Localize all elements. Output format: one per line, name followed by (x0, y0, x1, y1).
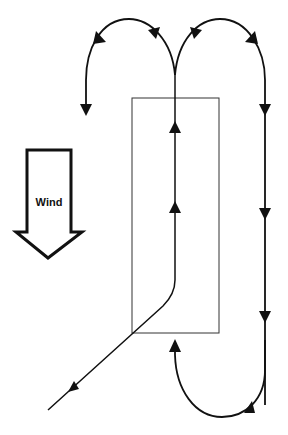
flight-pattern-diagram: Wind (0, 0, 288, 435)
down-arrow-icon (80, 104, 92, 116)
down-arrow-icon (259, 311, 271, 323)
down-arrow-icon (259, 104, 271, 116)
left-loop (86, 19, 175, 108)
wind-arrow-icon: Wind (16, 150, 82, 258)
right-loop (175, 19, 265, 405)
up-arrow-icon (169, 121, 181, 133)
up-arrow-icon (169, 201, 181, 213)
down-arrow-icon (259, 208, 271, 220)
up-arrow-icon (169, 339, 181, 352)
wind-label: Wind (36, 196, 63, 208)
turn-arrow-icon (245, 31, 258, 44)
